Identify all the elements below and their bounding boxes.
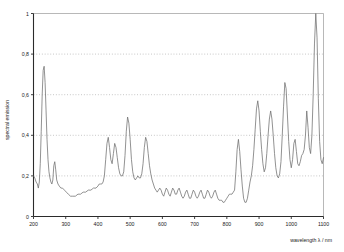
x-tick-label: 900: [255, 221, 264, 227]
axis-lines: [34, 14, 324, 217]
x-tick-label: 1000: [286, 221, 298, 227]
x-tick-label: 600: [158, 221, 167, 227]
y-tick-label: 0,2: [22, 173, 29, 179]
spectral-emission-chart: 20030040050060070080090010001100 00,20,4…: [0, 0, 344, 252]
x-tick-label: 400: [94, 221, 103, 227]
x-axis-tick-labels: 20030040050060070080090010001100: [29, 221, 329, 227]
y-tick-label: 0: [26, 214, 29, 220]
y-tick-label: 1: [26, 11, 29, 17]
chart-plot-area: 20030040050060070080090010001100 00,20,4…: [0, 0, 344, 252]
tick-marks: [31, 14, 324, 220]
y-tick-label: 0,6: [22, 92, 29, 98]
y-axis-title: spectral emission: [4, 100, 10, 140]
x-tick-label: 700: [190, 221, 199, 227]
x-tick-label: 300: [61, 221, 70, 227]
data-series: [34, 14, 324, 203]
grid-lines: [34, 14, 324, 176]
y-axis-tick-labels: 00,20,40,60,81: [22, 11, 29, 220]
x-tick-label: 1100: [318, 221, 329, 227]
series-line: [34, 14, 324, 203]
x-axis-title: wavelength λ / nm: [290, 237, 332, 243]
y-tick-label: 0,8: [22, 51, 29, 57]
x-tick-label: 200: [29, 221, 38, 227]
x-tick-label: 800: [223, 221, 232, 227]
x-tick-label: 500: [126, 221, 135, 227]
y-tick-label: 0,4: [22, 132, 29, 138]
